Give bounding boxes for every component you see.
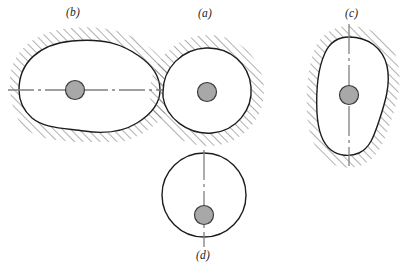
panel-label-a: (a)	[198, 7, 212, 19]
panel-c-group	[307, 24, 400, 168]
panel-label-c: (c)	[345, 7, 358, 19]
shaft-hub-icon-a	[198, 83, 217, 102]
panel-d-group	[162, 150, 246, 247]
panel-a-group	[150, 35, 264, 146]
panel-b-group	[8, 27, 173, 144]
shaft-hub-icon-d	[195, 206, 214, 225]
figure-canvas: (b) (a) (c) (d)	[0, 0, 410, 271]
shaft-hub-icon-c	[340, 86, 359, 105]
shaft-hub-icon-b	[66, 81, 85, 100]
figure-drawing	[0, 0, 410, 271]
panel-label-b: (b)	[66, 6, 80, 18]
panel-label-d: (d)	[196, 249, 210, 261]
